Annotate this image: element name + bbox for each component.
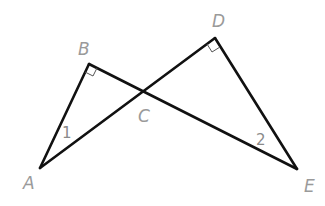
- geometry-diagram: B D A C E 1 2: [0, 0, 325, 206]
- label-point-D: D: [212, 11, 225, 31]
- label-point-B: B: [78, 39, 90, 59]
- label-angle-2: 2: [256, 131, 266, 149]
- segment-AD: [40, 38, 215, 168]
- segment-AB: [40, 64, 89, 168]
- label-point-A: A: [22, 173, 35, 193]
- segment-BE: [89, 64, 297, 169]
- label-angle-1: 1: [62, 124, 72, 142]
- label-point-C: C: [138, 106, 150, 126]
- label-point-E: E: [304, 176, 315, 196]
